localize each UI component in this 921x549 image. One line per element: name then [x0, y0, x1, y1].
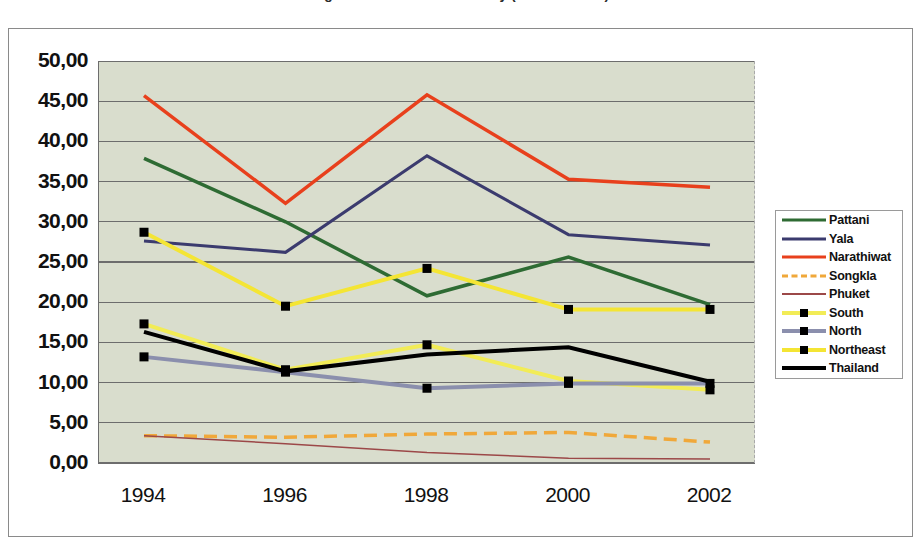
page-title: Figure 5 Incidence of Poverty (% of Pers…	[0, 0, 921, 2]
legend-item-south[interactable]: South	[776, 304, 902, 323]
series-marker	[564, 379, 573, 388]
legend-swatch-narathiwat	[782, 250, 826, 264]
legend-label: Phuket	[829, 287, 869, 301]
y-axis-tick-label: 5,00	[10, 410, 88, 434]
legend-swatch-north	[782, 324, 826, 338]
legend-swatch-thailand	[782, 361, 826, 375]
legend-label: Pattani	[829, 213, 869, 227]
y-axis-tick-label: 10,00	[10, 370, 88, 394]
legend-label: Songkla	[829, 269, 876, 283]
series-marker	[423, 340, 432, 349]
legend-marker-square	[800, 309, 808, 317]
legend-swatch-yala	[782, 232, 826, 246]
legend-label: North	[829, 324, 861, 338]
legend-swatch-northeast	[782, 343, 826, 357]
series-marker	[140, 352, 149, 361]
series-marker	[281, 302, 290, 311]
legend-swatch-phuket	[782, 287, 826, 301]
legend-label: South	[829, 306, 863, 320]
series-thailand	[144, 332, 710, 382]
legend-line	[782, 366, 826, 370]
legend-line	[782, 219, 826, 222]
legend-label: Northeast	[829, 343, 886, 357]
legend-item-north[interactable]: North	[776, 322, 902, 341]
x-axis-tick-label: 1998	[366, 483, 486, 507]
legend-swatch-pattani	[782, 213, 826, 227]
data-series-layer	[99, 61, 755, 463]
series-phuket	[144, 436, 710, 459]
y-axis-tick-label: 20,00	[10, 289, 88, 313]
series-marker	[423, 264, 432, 273]
legend-item-northeast[interactable]: Northeast	[776, 341, 902, 360]
legend-swatch-songkla	[782, 269, 826, 283]
series-line	[144, 332, 710, 382]
x-axis-tick-label: 2000	[508, 483, 628, 507]
legend-item-pattani[interactable]: Pattani	[776, 211, 902, 230]
series-marker	[564, 305, 573, 314]
series-yala	[144, 156, 710, 252]
x-axis-tick-label: 1996	[225, 483, 345, 507]
y-axis-tick-label: 25,00	[10, 249, 88, 273]
y-axis-tick-label: 50,00	[10, 48, 88, 72]
series-marker	[140, 319, 149, 328]
series-pattani	[144, 158, 710, 304]
legend-line	[782, 237, 826, 240]
legend-item-narathiwat[interactable]: Narathiwat	[776, 248, 902, 267]
series-narathiwat	[144, 95, 710, 204]
series-line	[144, 95, 710, 204]
legend-item-songkla[interactable]: Songkla	[776, 267, 902, 286]
legend-label: Yala	[829, 232, 853, 246]
y-axis-tick-label: 30,00	[10, 209, 88, 233]
chart-legend: PattaniYalaNarathiwatSongklaPhuketSouthN…	[775, 210, 903, 379]
legend-label: Narathiwat	[829, 250, 891, 264]
legend-item-phuket[interactable]: Phuket	[776, 285, 902, 304]
series-marker	[706, 305, 715, 314]
legend-item-yala[interactable]: Yala	[776, 230, 902, 249]
legend-label: Thailand	[829, 361, 879, 375]
y-axis-tick-label: 15,00	[10, 329, 88, 353]
series-marker	[140, 228, 149, 237]
plot-area	[98, 61, 755, 464]
series-marker	[423, 384, 432, 393]
y-axis-tick-label: 0,00	[10, 450, 88, 474]
y-axis-tick-label: 40,00	[10, 128, 88, 152]
series-northeast	[140, 228, 715, 314]
legend-line	[782, 256, 826, 259]
y-axis-tick-label: 45,00	[10, 88, 88, 112]
legend-swatch-south	[782, 306, 826, 320]
legend-line	[782, 293, 826, 295]
series-line	[144, 158, 710, 304]
legend-line	[782, 274, 826, 277]
legend-item-thailand[interactable]: Thailand	[776, 359, 902, 378]
plot-right-border	[754, 61, 755, 463]
legend-marker-square	[800, 346, 808, 354]
series-line	[144, 156, 710, 252]
chart-title-cropped: Figure 5 Incidence of Poverty (% of Pers…	[0, 0, 921, 12]
y-axis-tick-label: 35,00	[10, 169, 88, 193]
chart-page: Figure 5 Incidence of Poverty (% of Pers…	[0, 0, 921, 549]
chart-frame: 50,0045,0040,0035,0030,0025,0020,0015,00…	[8, 28, 913, 537]
x-axis-tick-label: 1994	[83, 483, 203, 507]
x-axis-tick-label: 2002	[649, 483, 769, 507]
legend-marker-square	[800, 327, 808, 335]
series-line	[144, 436, 710, 459]
